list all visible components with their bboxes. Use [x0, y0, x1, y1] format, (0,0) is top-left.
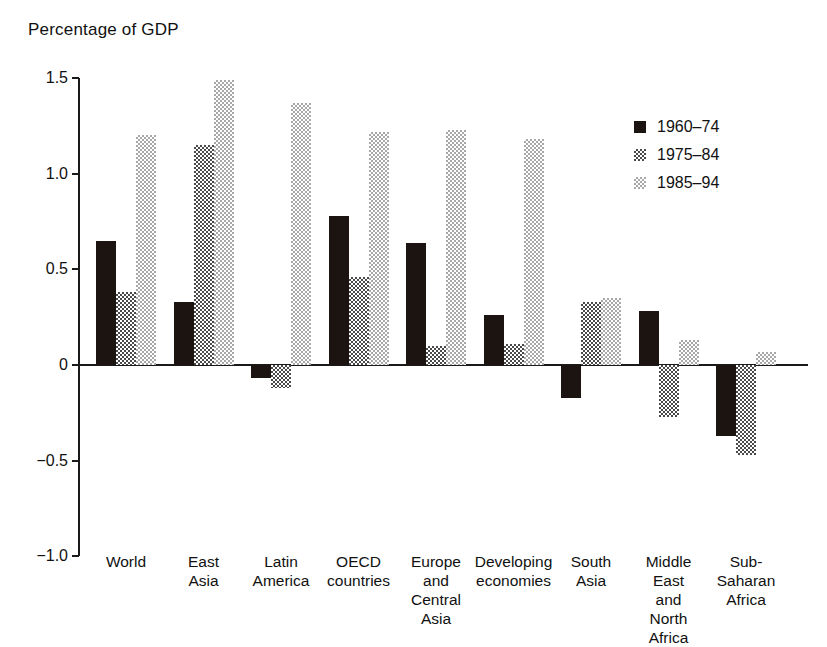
x-axis-category-label: Sub- Saharan Africa — [698, 552, 794, 609]
y-axis-tick-mark — [72, 555, 79, 557]
bar — [601, 298, 621, 365]
y-axis-tick-mark — [72, 364, 79, 366]
bar — [716, 365, 736, 436]
legend-label: 1985–94 — [657, 174, 719, 192]
legend-swatch-icon — [634, 177, 646, 189]
legend-label: 1975–84 — [657, 146, 719, 164]
bar-group — [484, 78, 544, 556]
bar — [136, 135, 156, 365]
bar — [639, 311, 659, 365]
bar — [369, 132, 389, 365]
bar — [581, 302, 601, 365]
bar-group — [329, 78, 389, 556]
bar — [174, 302, 194, 365]
bar — [484, 315, 504, 365]
y-axis-tick-label: −1.0 — [36, 547, 68, 565]
bar-group — [406, 78, 466, 556]
legend-swatch-icon — [634, 149, 646, 161]
y-axis-tick-mark — [72, 77, 79, 79]
legend-swatch-icon — [634, 121, 646, 133]
bar-group — [251, 78, 311, 556]
legend-item: 1985–94 — [634, 169, 804, 197]
bar-group — [561, 78, 621, 556]
bar — [406, 243, 426, 365]
bar — [271, 365, 291, 388]
bar — [659, 365, 679, 417]
bar — [251, 365, 271, 378]
y-axis-tick-label: 1.0 — [46, 165, 68, 183]
bar — [561, 365, 581, 398]
legend-item: 1960–74 — [634, 113, 804, 141]
y-axis-tick-label: 0 — [59, 356, 68, 374]
bar — [291, 103, 311, 365]
bar — [736, 365, 756, 455]
bar — [194, 145, 214, 365]
y-axis-tick-mark — [72, 460, 79, 462]
y-axis-tick-label: 0.5 — [46, 260, 68, 278]
bar — [96, 241, 116, 365]
bar — [214, 80, 234, 365]
y-axis-tick-labels: 1.51.00.50−0.5−1.0 — [0, 0, 68, 590]
bar — [524, 139, 544, 365]
bar-group — [174, 78, 234, 556]
chart-legend: 1960–741975–841985–94 — [634, 113, 804, 197]
bar — [349, 277, 369, 365]
y-axis-tick-mark — [72, 268, 79, 270]
bar — [756, 352, 776, 365]
legend-item: 1975–84 — [634, 141, 804, 169]
legend-label: 1960–74 — [657, 118, 719, 136]
bar — [679, 340, 699, 365]
y-axis-tick-label: −0.5 — [36, 452, 68, 470]
bar — [116, 292, 136, 365]
bar — [426, 346, 446, 365]
y-axis-tick-label: 1.5 — [46, 69, 68, 87]
bar — [329, 216, 349, 365]
bar — [504, 344, 524, 365]
y-axis-tick-mark — [72, 173, 79, 175]
bar-group — [96, 78, 156, 556]
bar — [446, 130, 466, 365]
